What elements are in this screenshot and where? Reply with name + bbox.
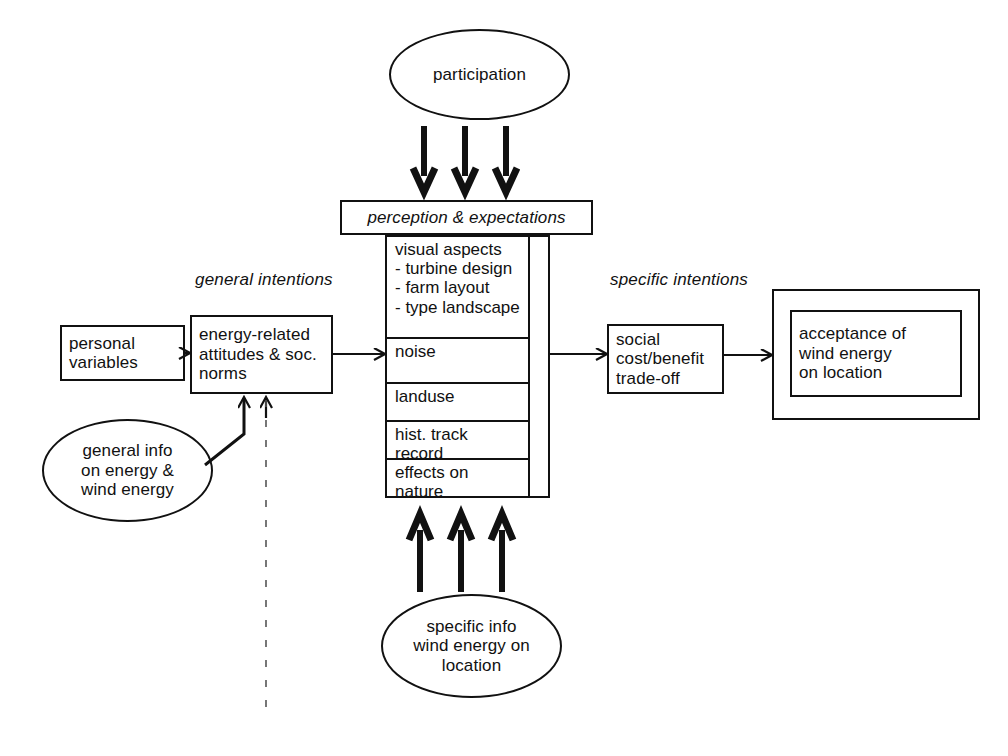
ellipse-specific-info: specific info wind energy on location [381,594,562,698]
social-tradeoff-label: social cost/benefit trade-off [616,330,704,388]
perception-row-landuse: landuse [387,384,528,422]
ellipse-participation: participation [389,29,570,120]
acceptance-label: acceptance of wind energy on location [799,324,906,382]
perception-row-hist-track-record: hist. track record [387,422,528,460]
perception-header-label: perception & expectations [349,208,584,227]
perception-header-box: perception & expectations [340,200,593,235]
arrow-specific-info-to-perception-2 [450,514,472,592]
personal-variables-label: personal variables [69,334,138,373]
label-specific-intentions: specific intentions [610,270,748,290]
ellipse-specific-info-label: specific info wind energy on location [383,617,560,675]
acceptance-box: acceptance of wind energy on location [790,310,962,397]
ellipse-general-info: general info on energy & wind energy [42,419,213,522]
diagram-canvas: participation perception & expectations … [0,0,1008,756]
arrow-participation-to-perception-2 [454,126,476,192]
ellipse-participation-label: participation [391,65,568,84]
perception-row-effects-on-nature: effects on nature [387,460,528,496]
perception-row-noise: noise [387,339,528,384]
energy-related-attitudes-label: energy-related attitudes & soc. norms [199,325,317,383]
social-tradeoff-box: social cost/benefit trade-off [607,324,724,394]
perception-stack: visual aspects - turbine design - farm l… [385,235,530,498]
arrow-participation-to-perception-3 [495,126,517,192]
personal-variables-box: personal variables [60,325,185,381]
arrow-participation-to-perception-1 [413,126,435,192]
perception-stack-outer-column [528,235,550,498]
arrow-specific-info-to-perception-3 [491,514,513,592]
perception-row-visual-aspects: visual aspects - turbine design - farm l… [387,237,528,339]
ellipse-general-info-label: general info on energy & wind energy [44,441,211,499]
arrow-specific-info-to-perception-1 [409,514,431,592]
label-general-intentions: general intentions [195,270,333,290]
energy-related-attitudes-box: energy-related attitudes & soc. norms [190,315,333,394]
